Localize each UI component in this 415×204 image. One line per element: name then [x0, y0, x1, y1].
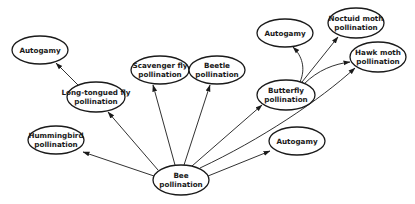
node-noctuid-moth: Noctuid mothpollination: [328, 8, 384, 38]
edge-bee-to-long-tongued-fly: [108, 112, 158, 170]
node-scavenger-fly: Scavenger flypollination: [131, 56, 189, 84]
edge-bee-to-butterfly: [192, 105, 262, 166]
edge-bee-to-hummingbird: [83, 152, 154, 176]
edge-butterfly-to-noctuid-moth: [302, 37, 338, 82]
node-label: pollination: [195, 70, 238, 79]
node-butterfly: Butterflypollination: [257, 80, 315, 110]
node-label: pollination: [138, 70, 181, 79]
edge-butterfly-to-autogamy-2: [293, 47, 303, 82]
node-bee: Beepollination: [153, 165, 209, 195]
edge-bee-to-autogamy-3: [208, 151, 270, 176]
node-label: Autogamy: [19, 46, 61, 55]
node-label: pollination: [159, 180, 202, 189]
node-label: Autogamy: [276, 137, 318, 146]
pollination-diagram: BeepollinationHummingbirdpollinationLong…: [0, 0, 415, 204]
node-beetle: Beetlepollination: [189, 56, 245, 84]
node-hawk-moth: Hawk mothpollination: [350, 42, 406, 72]
edge-bee-to-scavenger-fly: [153, 85, 175, 165]
node-label: pollination: [34, 140, 77, 149]
edge-butterfly-to-hawk-moth: [304, 62, 350, 84]
node-autogamy-1: Autogamy: [12, 36, 68, 64]
node-label: pollination: [334, 23, 377, 32]
edge-long-tongued-fly-to-autogamy-1: [56, 63, 78, 85]
node-autogamy-3: Autogamy: [269, 127, 325, 155]
node-label: pollination: [356, 57, 399, 66]
node-autogamy-2: Autogamy: [257, 19, 313, 47]
node-label: pollination: [74, 97, 117, 106]
nodes: BeepollinationHummingbirdpollinationLong…: [12, 8, 406, 195]
node-long-tongued-fly: Long-tongued flypollination: [61, 82, 130, 112]
node-hummingbird: Hummingbirdpollination: [28, 126, 84, 154]
edge-bee-to-beetle: [184, 85, 210, 165]
node-label: pollination: [264, 95, 307, 104]
node-label: Autogamy: [264, 29, 306, 38]
